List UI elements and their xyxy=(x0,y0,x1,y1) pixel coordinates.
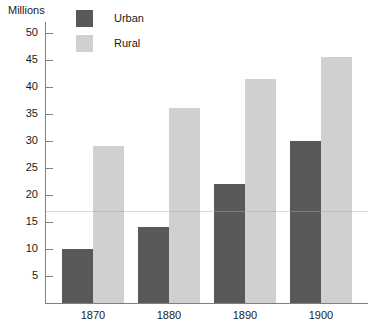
y-axis-tick-label: 15 xyxy=(8,215,38,227)
x-axis-label-1890: 1890 xyxy=(215,309,275,321)
y-axis-tick-label: 40 xyxy=(8,80,38,92)
bar-rural-1890 xyxy=(245,79,276,303)
bar-rural-1870 xyxy=(93,146,124,303)
y-axis-tick-label: 35 xyxy=(8,107,38,119)
bar-urban-1890 xyxy=(214,184,245,303)
bar-rural-1880 xyxy=(169,108,200,303)
y-axis-tick-label: 30 xyxy=(8,134,38,146)
bar-urban-1900 xyxy=(290,141,321,303)
y-axis-tick-label: 10 xyxy=(8,242,38,254)
bar-rural-1900 xyxy=(321,57,352,303)
plot-area xyxy=(45,22,368,303)
bar-urban-1870 xyxy=(62,249,93,303)
y-axis-title: Millions xyxy=(8,4,45,16)
y-axis-tick-label: 45 xyxy=(8,53,38,65)
bar-chart: Millions Urban Rural 5101520253035404550… xyxy=(0,0,372,322)
x-axis-label-1900: 1900 xyxy=(291,309,351,321)
x-axis-label-1880: 1880 xyxy=(139,309,199,321)
y-axis-tick-label: 20 xyxy=(8,188,38,200)
x-axis-line xyxy=(45,303,368,304)
y-axis-tick-label: 5 xyxy=(8,269,38,281)
x-axis-label-1870: 1870 xyxy=(63,309,123,321)
y-axis-tick-label: 25 xyxy=(8,161,38,173)
bar-urban-1880 xyxy=(138,227,169,303)
y-axis-tick-label: 50 xyxy=(8,26,38,38)
